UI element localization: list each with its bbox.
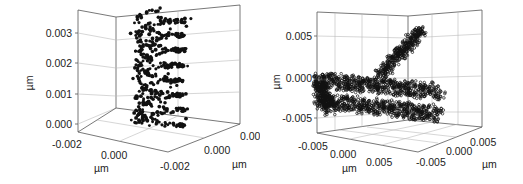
z-tick-2: 0.001 — [46, 88, 72, 100]
right-plot-axes: 0.005 0.000 -0.005 µm -0.005 0.000 0.005… — [260, 0, 523, 184]
folded-helix-markers — [312, 26, 447, 124]
right-3d-scatter-panel: 0.005 0.000 -0.005 µm -0.005 0.000 0.005… — [260, 0, 523, 184]
y-tick-0: -0.005 — [416, 156, 446, 168]
y-tick-0: -0.002 — [160, 160, 190, 172]
z-tick-0: 0.005 — [286, 30, 312, 42]
x-axis-unit: µm — [342, 162, 357, 174]
x-tick-1: 0.000 — [330, 148, 356, 160]
left-plot-axes: 0.003 0.002 0.001 0.000 µm -0.002 0.000 … — [0, 0, 260, 184]
x-tick-0: -0.005 — [298, 140, 328, 152]
z-tick-3: 0.000 — [46, 118, 72, 130]
z-axis-unit: µm — [270, 74, 282, 89]
z-tick-2: -0.005 — [282, 112, 312, 124]
z-tick-1: 0.002 — [46, 57, 72, 69]
y-tick-1: 0.000 — [204, 144, 230, 156]
z-axis-unit: µm — [23, 75, 35, 90]
y-axis-unit: µm — [232, 158, 247, 170]
x-tick-0: -0.002 — [52, 138, 82, 150]
y-axis-unit: µm — [482, 158, 497, 170]
z-tick-0: 0.003 — [46, 27, 72, 39]
x-tick-1: 0.000 — [101, 149, 127, 161]
z-tick-1: 0.000 — [286, 72, 312, 84]
x-tick-2: 0.005 — [366, 156, 392, 168]
y-tick-2: 0.005 — [470, 136, 496, 148]
y-tick-2: 0.002 — [240, 130, 260, 142]
helix-markers — [129, 6, 193, 128]
left-3d-scatter-panel: 0.003 0.002 0.001 0.000 µm -0.002 0.000 … — [0, 0, 260, 184]
x-axis-unit: µm — [94, 162, 109, 174]
y-tick-1: 0.000 — [446, 145, 472, 157]
